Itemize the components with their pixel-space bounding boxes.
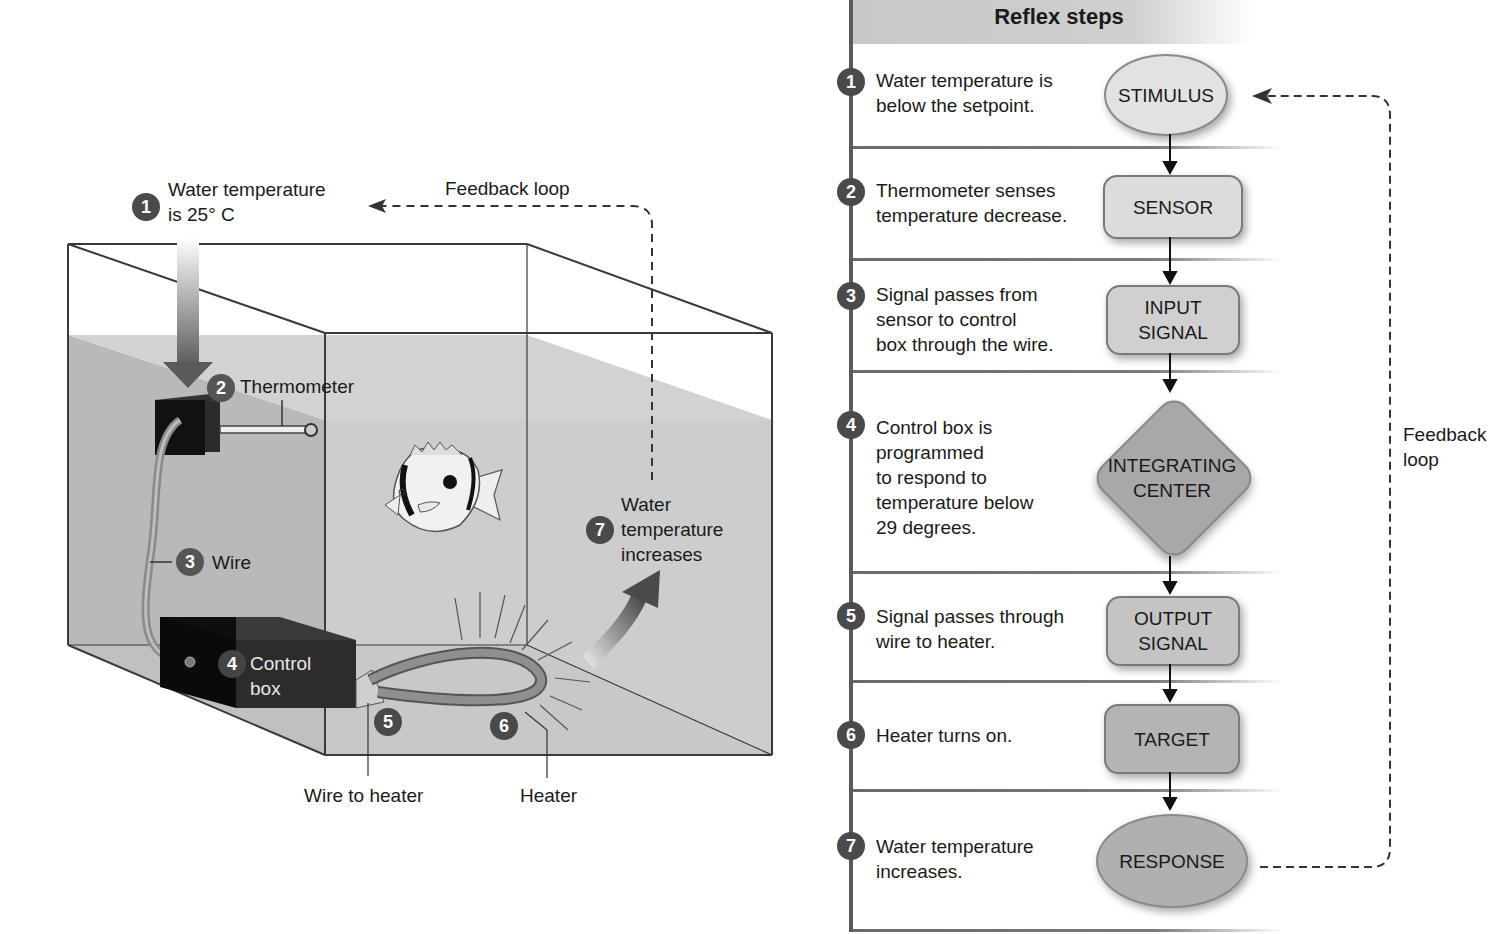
reflex-step-5-text: Signal passes through wire to heater. bbox=[876, 604, 1064, 654]
reflex-step-5-badge: 5 bbox=[837, 602, 865, 630]
step-text-line: to respond to bbox=[876, 465, 1033, 490]
step-3-badge: 3 bbox=[176, 548, 204, 576]
water-temperature-line2: is 25° C bbox=[168, 202, 326, 227]
step-text-line: Water temperature is bbox=[876, 68, 1053, 93]
step-text-line: box through the wire. bbox=[876, 332, 1053, 357]
temperature-increases-label: Water temperature increases bbox=[621, 492, 723, 567]
reflex-step-7-badge: 7 bbox=[837, 832, 865, 860]
control-box-label: Control box bbox=[250, 651, 311, 701]
reflex-step-3-text: Signal passes from sensor to control box… bbox=[876, 282, 1053, 357]
thermometer-label: Thermometer bbox=[240, 374, 354, 399]
step-text-line: Heater turns on. bbox=[876, 723, 1012, 748]
wire-to-heater-label: Wire to heater bbox=[304, 783, 423, 808]
step-text-line: temperature below bbox=[876, 490, 1033, 515]
step-2-badge: 2 bbox=[207, 374, 235, 402]
step-text-line: programmed bbox=[876, 440, 1033, 465]
water-temperature-label: Water temperature is 25° C bbox=[168, 177, 326, 227]
step-text-line: below the setpoint. bbox=[876, 93, 1053, 118]
wire-label: Wire bbox=[212, 550, 251, 575]
reflex-step-1-badge: 1 bbox=[837, 68, 865, 96]
temperature-increases-line2: temperature bbox=[621, 517, 723, 542]
water-temperature-line1: Water temperature bbox=[168, 177, 326, 202]
temperature-increases-line1: Water bbox=[621, 492, 723, 517]
step-text-line: Control box is bbox=[876, 415, 1033, 440]
step-5-badge: 5 bbox=[374, 708, 402, 736]
heater-label: Heater bbox=[520, 783, 577, 808]
temperature-down-arrow bbox=[163, 238, 213, 388]
reflex-step-1-text: Water temperature is below the setpoint. bbox=[876, 68, 1053, 118]
step-7-badge: 7 bbox=[586, 516, 614, 544]
step-text-line: sensor to control bbox=[876, 307, 1053, 332]
reflex-panel-border bbox=[849, 0, 853, 932]
reflex-step-6-text: Heater turns on. bbox=[876, 723, 1012, 748]
feedback-loop-path-right bbox=[1260, 96, 1390, 867]
feedback-loop-label-right: Feedback loop bbox=[1403, 422, 1486, 472]
feedback-label-line1: Feedback bbox=[1403, 422, 1486, 447]
feedback-label-line2: loop bbox=[1403, 447, 1486, 472]
reflex-step-2-text: Thermometer senses temperature decrease. bbox=[876, 178, 1067, 228]
reflex-step-3-badge: 3 bbox=[837, 282, 865, 310]
control-box-line1: Control bbox=[250, 651, 311, 676]
step-text-line: Signal passes through bbox=[876, 604, 1064, 629]
step-text-line: wire to heater. bbox=[876, 629, 1064, 654]
step-6-badge: 6 bbox=[490, 712, 518, 740]
reflex-step-4-text: Control box is programmed to respond to … bbox=[876, 415, 1033, 540]
step-text-line: Water temperature bbox=[876, 834, 1034, 859]
step-text-line: Signal passes from bbox=[876, 282, 1053, 307]
reflex-step-7-text: Water temperature increases. bbox=[876, 834, 1034, 884]
reflex-step-2-badge: 2 bbox=[837, 178, 865, 206]
reflex-step-4-badge: 4 bbox=[837, 411, 865, 439]
control-box-line2: box bbox=[250, 676, 311, 701]
step-4-badge: 4 bbox=[218, 650, 246, 678]
reflex-step-6-badge: 6 bbox=[837, 721, 865, 749]
step-1-badge: 1 bbox=[132, 193, 160, 221]
feedback-loop-label: Feedback loop bbox=[445, 176, 570, 201]
step-text-line: temperature decrease. bbox=[876, 203, 1067, 228]
temperature-increases-line3: increases bbox=[621, 542, 723, 567]
step-text-line: 29 degrees. bbox=[876, 515, 1033, 540]
step-text-line: increases. bbox=[876, 859, 1034, 884]
step-text-line: Thermometer senses bbox=[876, 178, 1067, 203]
